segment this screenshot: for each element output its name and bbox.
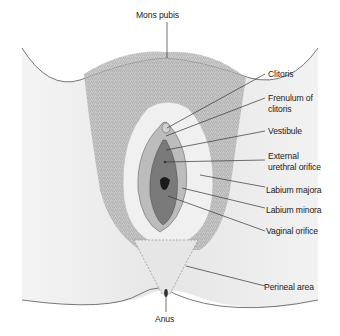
label-labium-minora: Labium minora	[266, 205, 322, 215]
label-anus: Anus	[155, 314, 174, 324]
anus	[164, 289, 168, 297]
label-frenulum-line1: Frenulum of	[268, 93, 313, 103]
label-vestibule: Vestibule	[268, 126, 302, 136]
clitoris	[162, 123, 170, 133]
label-clitoris: Clitoris	[268, 69, 293, 79]
label-vaginal-orifice: Vaginal orifice	[266, 226, 318, 236]
label-perineal-area: Perineal area	[264, 282, 314, 292]
label-frenulum-line2: clitoris	[268, 104, 292, 114]
label-labium-majora: Labium majora	[266, 185, 322, 195]
label-urethral-line1: External	[268, 151, 299, 161]
label-mons-pubis: Mons pubis	[136, 10, 179, 20]
label-urethral-line2: urethral orifice	[268, 162, 321, 172]
